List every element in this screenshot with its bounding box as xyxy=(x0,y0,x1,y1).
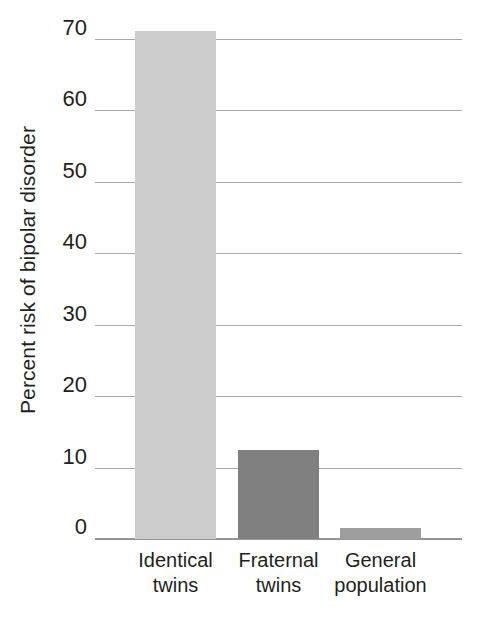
y-tick-label: 10 xyxy=(63,446,87,468)
plot-area: 010203040506070 xyxy=(95,20,462,541)
y-tick-label: 40 xyxy=(63,231,87,253)
y-tick-label: 70 xyxy=(63,17,87,39)
bar xyxy=(135,31,216,539)
y-tick-label: 0 xyxy=(75,516,87,538)
x-axis-label: Generalpopulation xyxy=(318,548,443,598)
y-tick-label: 20 xyxy=(63,374,87,396)
y-tick-label: 50 xyxy=(63,160,87,182)
bars xyxy=(95,20,462,541)
x-axis-category-labels: IdenticaltwinsFraternaltwinsGeneralpopul… xyxy=(95,548,477,618)
x-axis-label-line: General xyxy=(318,548,443,573)
bar xyxy=(238,450,319,539)
x-axis-label-line: population xyxy=(318,573,443,598)
bar-chart: Percent risk of bipolar disorder 0102030… xyxy=(0,0,477,621)
y-axis-title: Percent risk of bipolar disorder xyxy=(8,0,48,540)
y-tick-label: 30 xyxy=(63,303,87,325)
y-tick-label: 60 xyxy=(63,88,87,110)
bar xyxy=(340,528,421,539)
